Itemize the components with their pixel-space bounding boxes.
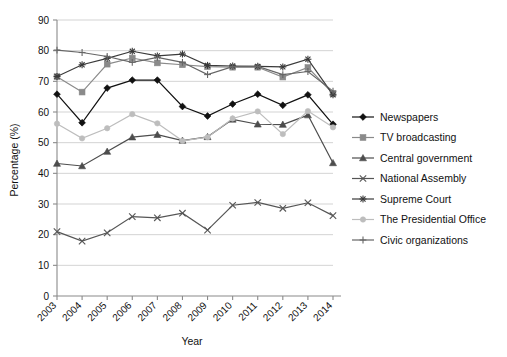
legend-item-supreme-court[interactable]: Supreme Court (352, 193, 451, 205)
data-point (305, 108, 310, 113)
data-point (104, 61, 110, 67)
y-tick-label: 10 (38, 260, 50, 271)
series-line (57, 202, 333, 241)
legend-marker-icon (360, 114, 367, 121)
data-point (54, 73, 61, 80)
series-line (57, 111, 333, 141)
legend-item-civic-organizations[interactable]: Civic organizations (352, 234, 468, 246)
legend-marker-icon (360, 217, 365, 222)
legend-label: The Presidential Office (380, 213, 486, 225)
chart-figure: 0102030405060708090 20032004200520062007… (0, 0, 507, 357)
y-tick-label: 70 (38, 76, 50, 87)
data-point (229, 101, 236, 108)
data-point (204, 62, 211, 69)
series-line (57, 58, 333, 94)
data-series-group (54, 47, 337, 245)
x-tick-label: 2008 (160, 299, 184, 323)
legend-label: Central government (380, 152, 472, 164)
data-point (104, 126, 109, 131)
data-point (255, 109, 260, 114)
legend-marker-icon (360, 237, 367, 244)
x-tick-label: 2005 (85, 299, 109, 323)
series-line (57, 50, 333, 91)
legend-marker-icon (360, 135, 366, 141)
line-chart: 0102030405060708090 20032004200520062007… (0, 0, 507, 357)
x-tick-label: 2004 (60, 299, 84, 323)
chart-legend: NewspapersTV broadcastingCentral governm… (352, 111, 486, 246)
data-point (330, 125, 335, 130)
x-tick-label: 2006 (110, 299, 134, 323)
legend-item-the-presidential-office[interactable]: The Presidential Office (352, 213, 486, 225)
gridlines-group (57, 20, 333, 265)
data-point (330, 212, 336, 218)
y-tick-labels-group: 0102030405060708090 (38, 15, 57, 302)
data-point (180, 138, 185, 143)
data-point (154, 60, 160, 66)
x-tick-label: 2011 (236, 299, 259, 322)
data-point (279, 102, 286, 109)
legend-label: Supreme Court (380, 193, 451, 205)
data-point (79, 89, 85, 95)
data-point (179, 51, 186, 58)
data-point (54, 47, 61, 54)
data-point (129, 48, 136, 55)
data-point (205, 134, 210, 139)
data-point (155, 121, 160, 126)
legend-item-national-assembly[interactable]: National Assembly (352, 172, 467, 184)
data-point (280, 131, 285, 136)
data-point (79, 61, 86, 68)
legend-label: National Assembly (380, 172, 467, 184)
data-point (129, 77, 136, 84)
series-civic-organizations (54, 47, 337, 95)
y-tick-label: 60 (38, 107, 50, 118)
series-national-assembly (54, 199, 336, 244)
data-point (279, 63, 286, 70)
y-tick-label: 20 (38, 229, 50, 240)
data-point (204, 227, 210, 233)
x-tick-label: 2003 (35, 299, 59, 323)
x-tick-label: 2010 (211, 299, 235, 323)
data-point (304, 56, 311, 63)
legend-item-central-government[interactable]: Central government (352, 152, 472, 164)
x-tick-label: 2013 (286, 299, 310, 323)
x-tick-label: 2012 (261, 299, 285, 323)
data-point (230, 116, 235, 121)
x-tick-label: 2007 (135, 299, 159, 323)
data-point (254, 91, 261, 98)
y-axis-title: Percentage (%) (8, 124, 20, 197)
data-point (79, 136, 84, 141)
y-tick-label: 90 (38, 15, 50, 26)
data-point (104, 148, 111, 154)
data-point (79, 238, 85, 244)
series-line (57, 115, 333, 166)
y-tick-label: 30 (38, 199, 50, 210)
series-central-government (54, 112, 337, 169)
legend-item-tv-broadcasting[interactable]: TV broadcasting (352, 131, 457, 143)
legend-item-newspapers[interactable]: Newspapers (352, 111, 438, 123)
data-point (79, 49, 86, 56)
y-tick-label: 0 (43, 291, 49, 302)
x-tick-labels-group: 2003200420052006200720082009201020112012… (35, 296, 335, 323)
legend-label: TV broadcasting (380, 131, 457, 143)
y-tick-label: 50 (38, 137, 50, 148)
series-line (57, 80, 333, 124)
data-point (130, 111, 135, 116)
data-point (54, 121, 59, 126)
x-tick-label: 2009 (185, 299, 209, 323)
data-point (330, 159, 337, 165)
legend-marker-icon (360, 196, 367, 203)
data-point (204, 113, 211, 120)
x-tick-label: 2014 (311, 299, 335, 323)
legend-label: Civic organizations (380, 234, 468, 246)
y-tick-label: 40 (38, 168, 50, 179)
y-tick-label: 80 (38, 45, 50, 56)
data-point (204, 71, 211, 78)
legend-label: Newspapers (380, 111, 438, 123)
x-axis-title: Year (181, 335, 203, 347)
